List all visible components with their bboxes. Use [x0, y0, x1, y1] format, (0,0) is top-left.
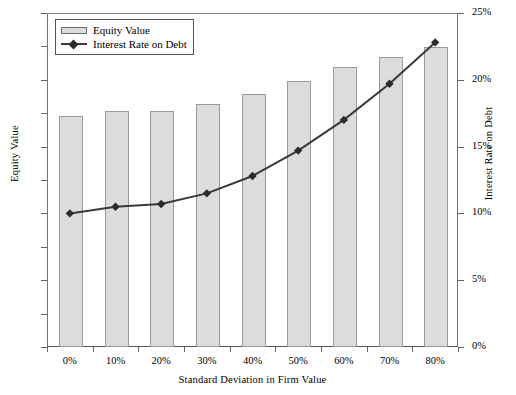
legend-item-label: Interest Rate on Debt — [93, 38, 187, 50]
x-axis-tick-mark — [93, 347, 94, 352]
y-axis-right-tick-mark — [458, 347, 464, 348]
y-axis-right-tick-mark — [458, 213, 464, 214]
y-axis-right-tick-mark — [458, 80, 464, 81]
x-axis-title: Standard Deviation in Firm Value — [47, 374, 458, 385]
chart-legend: Equity Value Interest Rate on Debt — [55, 19, 194, 55]
interest-rate-line — [70, 42, 435, 213]
x-axis-tick-mark — [412, 347, 413, 352]
legend-bar-swatch-icon — [61, 27, 87, 34]
data-point-marker — [66, 209, 74, 217]
y-axis-right-tick-mark — [458, 13, 464, 14]
x-axis-tick-mark — [367, 347, 368, 352]
data-point-marker — [203, 189, 211, 197]
legend-item-equity-value: Equity Value — [61, 23, 187, 37]
y-axis-right-tick-mark — [458, 280, 464, 281]
data-point-marker — [248, 172, 256, 180]
legend-line-marker-icon — [61, 39, 87, 49]
data-point-marker — [157, 200, 165, 208]
y-axis-left-title: Equity Value — [9, 84, 20, 224]
chart-container: 0102030405060708090100 0%5%10%15%20%25% … — [0, 0, 516, 395]
legend-item-interest-rate: Interest Rate on Debt — [61, 37, 187, 51]
y-axis-right-title: Interest Rate on Debt — [483, 84, 494, 224]
x-axis-tick-mark — [230, 347, 231, 352]
x-axis-tick-mark — [47, 347, 48, 352]
y-axis-right-tick-label: 25% — [472, 7, 512, 17]
data-point-marker — [111, 203, 119, 211]
x-axis-tick-mark — [184, 347, 185, 352]
y-axis-right-tick-label: 0% — [472, 341, 512, 351]
y-axis-right-tick-label: 5% — [472, 274, 512, 284]
x-axis-tick-mark — [275, 347, 276, 352]
x-axis-tick-mark — [138, 347, 139, 352]
x-axis-tick-mark — [321, 347, 322, 352]
line-series-interest-rate — [47, 13, 458, 347]
y-axis-right-tick-label: 20% — [472, 74, 512, 84]
legend-item-label: Equity Value — [93, 24, 150, 36]
y-axis-right-tick-mark — [458, 147, 464, 148]
x-axis-tick-label: 80% — [405, 355, 465, 366]
